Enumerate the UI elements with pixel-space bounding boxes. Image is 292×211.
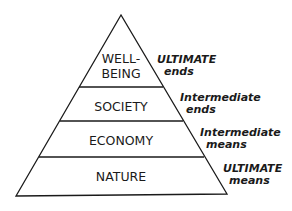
pyramid-diagram: WELL- BEING SOCIETY ECONOMY NATURE ULTIM… [0, 0, 292, 211]
level-economy: ECONOMY [89, 133, 153, 148]
level-wellbeing-line1: WELL- [102, 51, 140, 66]
label-economy-line2: means [206, 138, 247, 151]
label-society-line2: ends [186, 103, 216, 116]
level-wellbeing-line2: BEING [101, 66, 140, 81]
label-wellbeing-line2: ends [164, 65, 194, 78]
label-nature-line2: means [229, 174, 270, 187]
level-society: SOCIETY [94, 99, 148, 114]
level-nature: NATURE [96, 169, 146, 184]
